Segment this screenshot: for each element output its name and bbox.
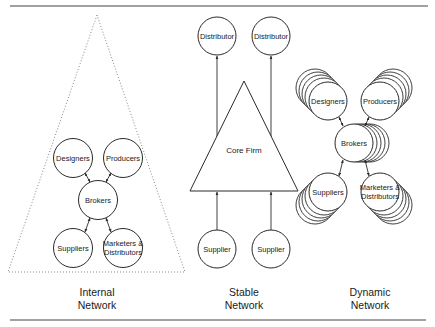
node-label: Suppliers: [312, 188, 344, 197]
node-label-line2: Distributors: [104, 248, 142, 257]
node-stack-suppliers: Suppliers: [296, 173, 347, 224]
core-firm-triangle: [190, 81, 298, 191]
caption-stable-line2: Network: [225, 299, 264, 311]
node-label: Designers: [56, 154, 90, 163]
node-label-line2: Distributors: [361, 192, 399, 201]
caption-dynamic-line2: Network: [351, 299, 390, 311]
stable-network: Core Firm Distributor Distributor Suppli…: [190, 17, 298, 311]
node-supplier-left: Supplier: [198, 230, 236, 268]
node-stack-marketers-distributors: Marketers & Distributors: [360, 173, 412, 224]
internal-boundary-triangle: [8, 15, 185, 272]
node-label-line1: Marketers &: [103, 239, 143, 248]
node-label: Producers: [106, 154, 140, 163]
node-stack-producers: Producers: [361, 69, 412, 120]
node-label: Supplier: [257, 245, 285, 254]
caption-internal-line1: Internal: [79, 286, 114, 298]
node-distributor-left: Distributor: [198, 17, 236, 55]
node-label: Brokers: [85, 196, 111, 205]
node-stack-designers: Designers: [296, 69, 347, 120]
node-label: Suppliers: [57, 244, 89, 253]
caption-stable-line1: Stable: [229, 286, 259, 298]
connector-producers-brokers: [106, 173, 111, 182]
node-brokers: Brokers: [79, 181, 118, 220]
node-label: Distributor: [200, 32, 235, 41]
node-marketers-distributors: Marketers & Distributors: [103, 229, 143, 268]
node-label: Brokers: [341, 139, 367, 148]
node-label-line1: Marketers &: [360, 183, 400, 192]
core-firm-label: Core Firm: [226, 146, 262, 155]
node-label: Distributor: [254, 32, 289, 41]
node-label: Designers: [311, 97, 345, 106]
node-stack-brokers: Brokers: [335, 124, 389, 162]
node-designers: Designers: [54, 139, 93, 178]
dynamic-network: Designers Producers Brokers Supp: [296, 69, 412, 311]
node-distributor-right: Distributor: [252, 17, 290, 55]
node-supplier-right: Supplier: [252, 230, 290, 268]
caption-internal-line2: Network: [78, 299, 117, 311]
node-suppliers: Suppliers: [54, 229, 93, 268]
internal-network: Designers Producers Brokers Suppliers Ma…: [8, 15, 185, 311]
connector-designers-brokers: [339, 117, 343, 126]
network-types-diagram: Designers Producers Brokers Suppliers Ma…: [0, 0, 435, 327]
connector-brokers-suppliers: [85, 218, 90, 232]
connector-designers-brokers: [85, 173, 90, 182]
node-label: Supplier: [203, 245, 231, 254]
node-producers: Producers: [104, 139, 143, 178]
connector-brokers-marketers: [106, 218, 111, 232]
connector-brokers-suppliers: [339, 160, 343, 176]
caption-dynamic-line1: Dynamic: [350, 286, 391, 298]
node-label: Producers: [363, 97, 397, 106]
